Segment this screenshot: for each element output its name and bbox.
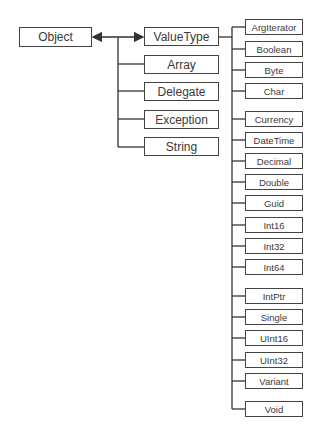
valuetype-node-variant: Variant (245, 373, 303, 389)
type-node-string: String (144, 137, 219, 156)
type-node-delegate: Delegate (144, 82, 219, 101)
valuetype-label: DateTime (254, 135, 295, 146)
valuetype-node-char: Char (245, 83, 303, 99)
valuetype-node-int32: Int32 (245, 238, 303, 254)
valuetype-node-int64: Int64 (245, 259, 303, 275)
type-node-valuetype: ValueType (144, 27, 219, 46)
object-node: Object (19, 27, 92, 47)
valuetype-node-byte: Byte (245, 62, 303, 78)
valuetype-label: UInt32 (260, 355, 288, 366)
type-label: Delegate (157, 85, 205, 99)
valuetype-label: Int32 (263, 241, 284, 252)
valuetype-node-currency: Currency (245, 111, 303, 127)
valuetype-node-double: Double (245, 174, 303, 190)
valuetype-node-argiterator: ArgIterator (245, 19, 303, 35)
valuetype-node-intptr: IntPtr (245, 288, 303, 304)
type-node-array: Array (144, 55, 219, 74)
object-label: Object (38, 30, 73, 44)
valuetype-label: Variant (259, 376, 288, 387)
valuetype-node-void: Void (245, 401, 303, 417)
valuetype-label: Double (259, 177, 289, 188)
valuetype-label: ArgIterator (252, 22, 297, 33)
valuetype-node-datetime: DateTime (245, 132, 303, 148)
valuetype-label: IntPtr (263, 291, 286, 302)
type-node-exception: Exception (144, 110, 219, 129)
valuetype-label: Int16 (263, 220, 284, 231)
valuetype-label: Byte (264, 65, 283, 76)
type-label: ValueType (154, 30, 210, 44)
valuetype-label: Void (265, 404, 284, 415)
valuetype-node-uint16: UInt16 (245, 330, 303, 346)
valuetype-node-int16: Int16 (245, 217, 303, 233)
valuetype-node-decimal: Decimal (245, 153, 303, 169)
valuetype-label: UInt16 (260, 333, 288, 344)
valuetype-label: Decimal (257, 156, 291, 167)
valuetype-label: Guid (264, 198, 284, 209)
type-label: Array (167, 58, 196, 72)
valuetype-label: Single (261, 312, 287, 323)
valuetype-node-single: Single (245, 309, 303, 325)
type-label: String (166, 140, 197, 154)
valuetype-node-boolean: Boolean (245, 41, 303, 57)
valuetype-label: Boolean (257, 44, 292, 55)
valuetype-label: Char (264, 86, 285, 97)
valuetype-node-guid: Guid (245, 195, 303, 211)
valuetype-label: Int64 (263, 262, 284, 273)
valuetype-label: Currency (255, 114, 294, 125)
valuetype-node-uint32: UInt32 (245, 352, 303, 368)
type-label: Exception (155, 113, 208, 127)
